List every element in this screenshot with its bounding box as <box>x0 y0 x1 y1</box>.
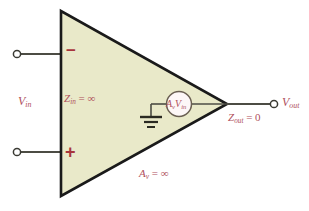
a-v-base: A <box>139 167 146 179</box>
source-gain-sub: v <box>172 103 175 110</box>
v-in-sub: in <box>25 100 31 109</box>
z-out-relation: = 0 <box>243 111 260 123</box>
a-v-relation: = ∞ <box>149 167 169 179</box>
noninverting-input-terminal[interactable] <box>13 148 20 155</box>
output-terminal[interactable] <box>270 100 277 107</box>
source-volt-sub: in <box>181 103 186 110</box>
z-in-relation: = ∞ <box>76 92 96 104</box>
opamp-ideal-model-figure: − + Vin Zin = ∞ AvVin Zout = 0 Vout Av =… <box>0 0 309 211</box>
v-out-label: Vout <box>282 96 299 108</box>
a-v-label: Av = ∞ <box>139 168 169 179</box>
v-in-label: Vin <box>18 95 32 107</box>
noninverting-input-sign: + <box>65 143 76 161</box>
dependent-source-label: AvVin <box>166 99 186 109</box>
a-v-sub: v <box>146 173 149 181</box>
z-in-sub: in <box>70 98 76 106</box>
z-in-label: Zin = ∞ <box>64 93 95 104</box>
v-out-sub: out <box>289 101 299 110</box>
inverting-input-sign: − <box>66 42 76 59</box>
inverting-input-terminal[interactable] <box>13 50 20 57</box>
z-out-sub: out <box>234 117 243 125</box>
circuit-schematic <box>0 0 309 211</box>
z-out-label: Zout = 0 <box>228 112 261 123</box>
